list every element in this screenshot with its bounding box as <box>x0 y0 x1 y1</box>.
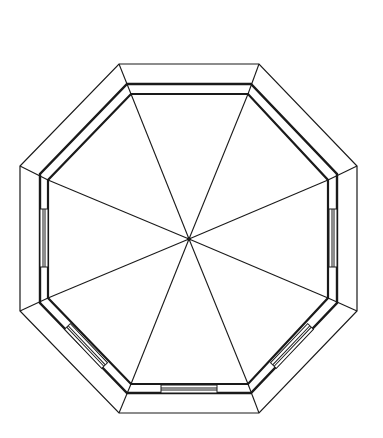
window-bottom <box>161 385 217 393</box>
gazebo-plan-diagram: Octagonal gazebo plan <box>0 0 383 438</box>
window-left <box>40 209 48 267</box>
center-point <box>187 237 190 240</box>
window-right <box>329 209 337 267</box>
window-bottom-left <box>65 324 108 369</box>
window-bottom-right <box>271 324 314 369</box>
octagon-drawing <box>0 0 383 438</box>
